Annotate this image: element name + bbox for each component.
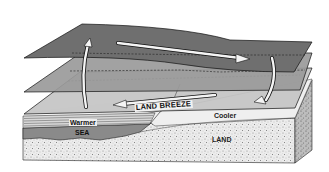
cooler-label: Cooler (214, 112, 236, 119)
diagram-canvas (0, 0, 329, 172)
land-label: LAND (212, 136, 231, 143)
sea-label: SEA (75, 129, 89, 136)
warmer-label: Warmer (69, 119, 97, 126)
land-breeze-diagram: LAND BREEZE Warmer SEA Cooler LAND (0, 0, 329, 172)
